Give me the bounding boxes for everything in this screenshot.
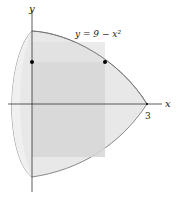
point-tip xyxy=(146,103,148,105)
y-axis-label: y xyxy=(28,3,35,14)
x-axis-label: x xyxy=(165,98,171,109)
point-on-curve xyxy=(103,60,107,64)
inscribed-region xyxy=(32,62,105,157)
curve-label: y = 9 − x² xyxy=(74,29,121,39)
x-tick-3: 3 xyxy=(145,111,151,121)
solid-diagram: y x 3 y = 9 − x² xyxy=(0,0,179,199)
point-left xyxy=(30,60,34,64)
